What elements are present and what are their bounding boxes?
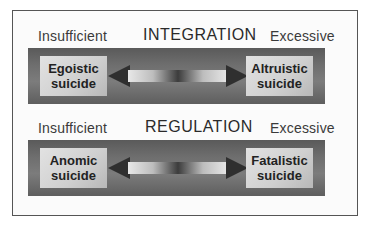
regulation-bar: Anomic suicide Fatalistic suicide [28, 140, 325, 196]
regulation-title: REGULATION [145, 118, 253, 136]
fatalistic-line2: suicide [257, 168, 302, 183]
egoistic-suicide-box: Egoistic suicide [40, 56, 107, 96]
anomic-line2: suicide [51, 168, 96, 183]
altruistic-suicide-box: Altruistic suicide [246, 56, 313, 96]
arrow-left-icon [108, 157, 130, 179]
arrow-left-icon [108, 65, 130, 87]
integration-title: INTEGRATION [143, 26, 257, 44]
arrow-right-icon [226, 65, 248, 87]
regulation-insufficient-label: Insufficient [38, 120, 107, 136]
altruistic-line2: suicide [257, 76, 302, 91]
anomic-suicide-box: Anomic suicide [40, 148, 107, 188]
arrow-shaft [128, 70, 228, 82]
integration-bar: Egoistic suicide Altruistic suicide [28, 48, 325, 104]
integration-insufficient-label: Insufficient [38, 28, 107, 44]
fatalistic-suicide-box: Fatalistic suicide [246, 148, 313, 188]
egoistic-line2: suicide [51, 76, 96, 91]
egoistic-line1: Egoistic [48, 61, 99, 76]
altruistic-line1: Altruistic [251, 61, 307, 76]
arrow-shaft [128, 162, 228, 174]
fatalistic-line1: Fatalistic [251, 153, 307, 168]
regulation-excessive-label: Excessive [270, 120, 335, 136]
anomic-line1: Anomic [50, 153, 98, 168]
arrow-right-icon [226, 157, 248, 179]
integration-excessive-label: Excessive [270, 28, 335, 44]
